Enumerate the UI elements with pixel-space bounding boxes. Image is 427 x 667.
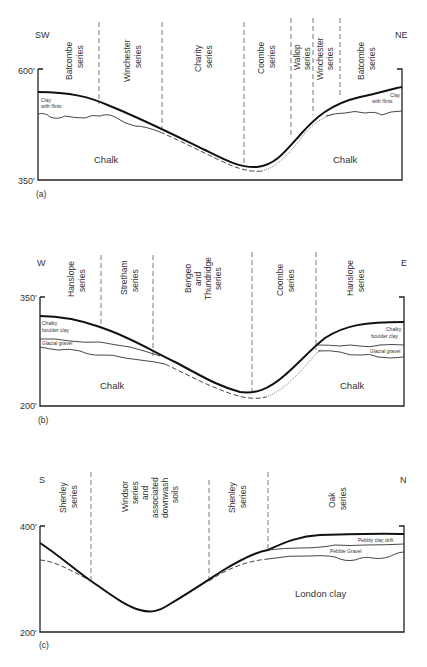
layer-label: Pebble Gravel [330, 548, 362, 554]
layer-label: with flints [372, 98, 393, 104]
direction-right: NE [395, 30, 408, 40]
series-label: Winchester [122, 39, 132, 82]
direction-left: SW [35, 30, 50, 40]
series-label: Shenley [58, 482, 68, 513]
elevation-top: 350' [20, 293, 37, 303]
series-label: series [130, 481, 140, 504]
series-label: and [193, 272, 203, 286]
bedrock-label: Chalk [333, 154, 358, 165]
layer-label: Glacial gravel [42, 340, 72, 346]
series-labels: Shenley series Windsor series and associ… [58, 477, 348, 518]
series-label: Coombe [256, 42, 266, 74]
bedrock-label: Chalk [100, 380, 125, 391]
series-boundaries [99, 18, 340, 165]
series-label: Hanslope [66, 261, 76, 297]
layer-label: boulder clay [42, 327, 69, 333]
layer-boundary [40, 347, 165, 364]
panel-a: SW NE 600' 350' (a) Batcombe series Winc… [18, 18, 408, 199]
series-labels: Hanslope series Stretham series Bengeo a… [66, 257, 366, 300]
series-suffix: series [338, 487, 348, 510]
series-label: Stretham [119, 261, 129, 296]
series-label: Thundridge [203, 257, 213, 300]
series-label: downwash [160, 478, 170, 518]
series-suffix: series [77, 269, 87, 292]
panel-c: S N 400' 200' (c) Shenley series Windsor… [20, 472, 407, 650]
layer-boundary-dashed [160, 132, 262, 171]
series-suffix: series [130, 269, 140, 292]
series-suffix: series [133, 45, 143, 68]
layer-label: Glacial gravel [370, 348, 400, 354]
series-suffix: series [302, 47, 312, 70]
layer-label: Chalky [386, 326, 402, 332]
layer-label: Chalky [42, 320, 58, 326]
series-suffix: series [75, 45, 85, 68]
series-suffix: series [286, 269, 296, 292]
direction-left: S [39, 475, 45, 485]
layer-boundary [326, 111, 402, 116]
series-suffix: series [367, 47, 377, 70]
layer-label: Pebbly clay drift [358, 537, 394, 543]
elevation-bottom: 200' [20, 401, 37, 411]
series-label: Oak [327, 492, 337, 508]
series-label: Bengeo [183, 263, 193, 293]
series-label: Shenley [227, 482, 237, 513]
series-label: Charity [193, 44, 203, 72]
layer-label: boulder clay [371, 333, 398, 339]
series-label: and [140, 486, 150, 500]
layer-boundary [38, 113, 160, 132]
series-suffix: series [356, 269, 366, 292]
frame [40, 526, 404, 632]
series-label: Coombe [275, 264, 285, 296]
direction-left: W [37, 258, 46, 268]
layer-boundary-dashed [40, 560, 91, 581]
bedrock-label: London clay [295, 588, 346, 599]
bedrock-label: Chalk [340, 380, 365, 391]
panel-caption: (a) [36, 189, 47, 199]
series-label: Winchester [315, 37, 325, 80]
elevation-top: 400' [20, 522, 37, 532]
series-label: Batcombe [356, 41, 366, 80]
direction-right: E [401, 258, 407, 268]
series-suffix: series [213, 267, 223, 290]
panel-caption: (b) [38, 415, 49, 425]
panel-caption: (c) [39, 640, 49, 650]
series-suffix: series [69, 485, 79, 508]
panel-b: W E 350' 200' (b) Hanslope series Streth… [20, 252, 407, 425]
soil-catena-diagrams: SW NE 600' 350' (a) Batcombe series Winc… [0, 0, 427, 667]
series-label: Hanslope [345, 260, 355, 296]
series-suffix: series [325, 47, 335, 70]
bedrock-label: Chalk [94, 154, 119, 165]
layer-label: with flints [41, 103, 62, 109]
series-suffix: series [204, 45, 214, 68]
elevation-bottom: 350' [18, 176, 35, 186]
elevation-top: 600' [18, 66, 35, 76]
series-label: associated [150, 477, 160, 518]
direction-right: N [400, 475, 407, 485]
series-suffix: series [238, 485, 248, 508]
layer-boundary-dotted [266, 350, 322, 397]
series-label: Wallop [292, 44, 302, 70]
elevation-bottom: 200' [20, 628, 37, 638]
series-label: soils [170, 486, 180, 503]
series-label: Windsor [120, 481, 130, 512]
series-labels: Batcombe series Winchester series Charit… [64, 37, 377, 82]
series-suffix: series [267, 45, 277, 68]
layer-boundary [318, 345, 404, 347]
series-label: Batcombe [64, 41, 74, 80]
